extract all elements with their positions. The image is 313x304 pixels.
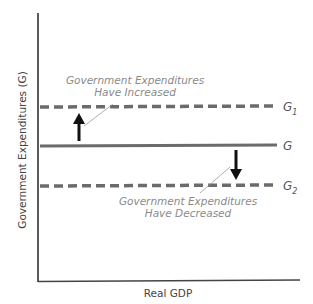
decrease-annotation-line2: Have Decreased bbox=[145, 207, 232, 219]
y-axis-label: Government Expenditures (G) bbox=[16, 71, 28, 229]
chart-canvas: Government Expenditures Have Increased G… bbox=[0, 0, 313, 304]
g1-line bbox=[40, 106, 277, 107]
g2-line bbox=[40, 185, 277, 186]
increase-annotation-line2: Have Increased bbox=[94, 86, 176, 98]
x-axis bbox=[38, 280, 300, 282]
decrease-arrow-icon bbox=[230, 150, 242, 180]
g-label: G bbox=[283, 139, 292, 153]
decrease-leader-line bbox=[200, 167, 230, 193]
increase-annotation-line1: Government Expenditures bbox=[66, 74, 205, 86]
g2-label: G2 bbox=[283, 179, 297, 196]
decrease-annotation-line1: Government Expenditures bbox=[119, 195, 258, 207]
g1-label: G1 bbox=[283, 100, 297, 117]
x-axis-label: Real GDP bbox=[144, 287, 193, 299]
g-line bbox=[40, 145, 277, 146]
increase-arrow-icon bbox=[73, 113, 85, 141]
